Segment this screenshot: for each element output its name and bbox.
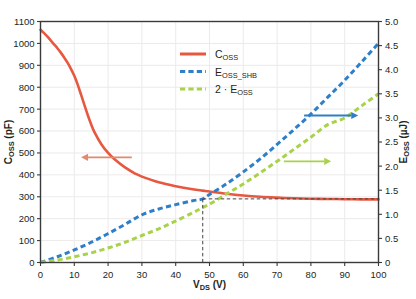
y-axis-right-tick-label: 4.0 [385,64,398,75]
x-axis-tick-label: 80 [306,269,317,280]
y-axis-right-tick-label: 4.5 [385,40,398,51]
y-axis-left-tick-label: 1000 [13,38,34,49]
x-axis-tick-label: 100 [371,269,387,280]
y-axis-left-tick-label: 1100 [14,16,34,27]
x-axis-tick-label: 60 [238,269,249,280]
y-axis-right-tick-label: 3.5 [385,88,398,99]
x-axis-tick-label: 20 [103,269,114,280]
y-axis-right-tick-label: 1.0 [385,209,398,220]
y-axis-right-tick-label: 1.5 [385,185,398,196]
y-axis-right-tick-label: 0.5 [385,233,398,244]
y-axis-left-tick-label: 300 [19,191,35,202]
y-axis-right-tick-label: 5.0 [385,16,398,27]
y-axis-left-tick-label: 800 [19,82,35,93]
y-axis-left-tick-label: 500 [19,147,35,158]
y-axis-left-tick-label: 400 [19,169,35,180]
y-axis-left-tick-label: 200 [19,213,35,224]
y-axis-right-tick-label: 0 [385,257,390,268]
coss-eoss-chart: 0102030405060708090100010020030040050060… [0,0,416,299]
y-axis-right-tick-label: 3.0 [385,112,398,123]
y-axis-left-tick-label: 0 [29,257,34,268]
x-axis-tick-label: 10 [69,269,80,280]
x-axis-title: VDS (V) [193,279,226,292]
x-axis-tick-label: 30 [137,269,148,280]
y-axis-left-tick-label: 900 [19,60,35,71]
x-axis-tick-label: 0 [38,269,43,280]
x-axis-tick-label: 40 [170,269,181,280]
y-axis-right-tick-label: 2.5 [385,136,398,147]
y-axis-right-tick-label: 2.0 [385,161,398,172]
y-axis-right-title: EOSS (µJ) [398,120,411,163]
y-axis-left-tick-label: 700 [19,104,35,115]
y-axis-left-tick-label: 600 [19,125,35,136]
x-axis-tick-label: 90 [339,269,350,280]
x-axis-tick-label: 70 [272,269,283,280]
y-axis-left-tick-label: 100 [19,235,35,246]
x-axis-tick-label: 50 [204,269,215,280]
y-axis-left-title: COSS (pF) [3,120,16,165]
